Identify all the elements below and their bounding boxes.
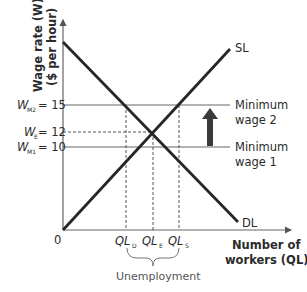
y-tick-wm1: W M1 = 10 [17,140,66,155]
svg-text:QL: QL [142,234,157,248]
y-axis-label-line2: ($ per hour) [45,8,59,86]
svg-text:M2: M2 [27,106,36,113]
wage-diagram: Wage rate (W) ($ per hour) W M2 = 15 W E… [0,0,307,292]
min-wage-2-label-line2: wage 2 [235,113,277,127]
min-wage-2-label-line1: Minimum [235,98,288,112]
unemployment-brace [127,248,179,266]
x-axis-label-line2: workers (QL) [225,253,307,267]
y-tick-we: W E = 12 [24,125,66,140]
svg-text:QL: QL [168,234,183,248]
x-tick-qle: QL E [142,234,163,249]
min-wage-1-label-line2: wage 1 [235,155,277,169]
min-wage-1-label-line1: Minimum [235,140,288,154]
svg-text:QL: QL [115,234,130,248]
supply-curve-sl [63,49,230,230]
svg-text:S: S [185,242,189,249]
svg-text:E: E [159,242,163,249]
svg-text:= 15: = 15 [38,98,66,112]
origin-label: 0 [54,233,61,247]
svg-text:= 10: = 10 [38,140,66,154]
x-tick-qld: QL D [115,234,137,249]
y-axis-label-line1: Wage rate (W) [31,0,45,92]
svg-text:D: D [132,242,137,249]
sl-label: SL [235,41,249,55]
x-tick-qls: QL S [168,234,189,249]
x-axis-label-line1: Number of [232,238,301,252]
unemployment-label: Unemployment [116,270,201,283]
svg-text:= 12: = 12 [38,125,66,139]
dl-label: DL [242,216,258,230]
up-arrow-icon [202,108,218,146]
svg-text:M1: M1 [27,148,36,155]
y-tick-wm2: W M2 = 15 [17,98,66,113]
